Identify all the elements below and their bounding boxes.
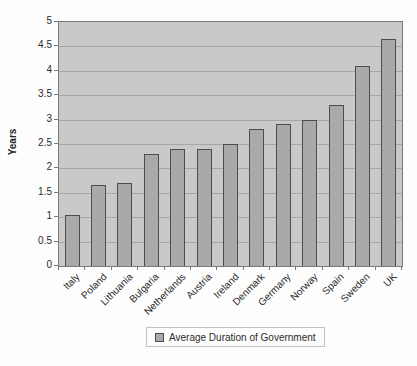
bar-chart: Years 00.511.522.533.544.55 ItalyPolandL…: [0, 0, 417, 366]
x-tick-mark: [322, 266, 323, 270]
bar-lithuania: [117, 183, 132, 266]
bar-bulgaria: [144, 154, 159, 266]
gridline-4.5: [59, 46, 402, 47]
x-tick-label-italy: Italy: [61, 271, 82, 292]
legend-marker-icon: [155, 333, 164, 342]
x-tick-label-austria: Austria: [184, 271, 214, 301]
x-tick-mark: [164, 266, 165, 270]
y-tick-mark: [54, 143, 58, 144]
x-tick-mark: [269, 266, 270, 270]
x-tick-mark: [401, 266, 402, 270]
plot-area: [58, 21, 403, 267]
x-tick-mark: [375, 266, 376, 270]
bar-germany: [276, 124, 291, 266]
gridline-3: [59, 120, 402, 121]
y-axis-title: Years: [7, 129, 18, 156]
bar-sweden: [355, 66, 370, 266]
x-tick-mark: [58, 266, 59, 270]
gridline-4: [59, 71, 402, 72]
x-tick-mark: [111, 266, 112, 270]
y-tick-mark: [54, 45, 58, 46]
x-tick-mark: [84, 266, 85, 270]
x-tick-mark: [216, 266, 217, 270]
y-tick-mark: [54, 94, 58, 95]
y-tick-mark: [54, 241, 58, 242]
x-tick-mark: [190, 266, 191, 270]
y-tick-mark: [54, 119, 58, 120]
y-tick-label-1: 1: [18, 210, 52, 222]
y-tick-label-1.5: 1.5: [18, 186, 52, 198]
bar-norway: [302, 120, 317, 266]
y-tick-label-2.5: 2.5: [18, 137, 52, 149]
y-tick-label-3.5: 3.5: [18, 88, 52, 100]
y-tick-mark: [54, 70, 58, 71]
x-tick-mark: [137, 266, 138, 270]
x-tick-mark: [295, 266, 296, 270]
y-tick-mark: [54, 167, 58, 168]
legend: Average Duration of Government: [146, 327, 325, 347]
y-tick-label-2: 2: [18, 161, 52, 173]
bar-spain: [329, 105, 344, 266]
y-tick-label-4: 4: [18, 64, 52, 76]
x-tick-label-uk: UK: [381, 271, 399, 289]
bar-uk: [381, 39, 396, 266]
bar-poland: [91, 185, 106, 266]
x-tick-label-norway: Norway: [288, 271, 320, 303]
y-tick-mark: [54, 192, 58, 193]
y-tick-mark: [54, 21, 58, 22]
bar-netherlands: [170, 149, 185, 266]
bar-ireland: [223, 144, 238, 266]
x-tick-mark: [243, 266, 244, 270]
gridline-3.5: [59, 95, 402, 96]
bar-italy: [65, 215, 80, 266]
y-tick-label-3: 3: [18, 113, 52, 125]
x-tick-mark: [348, 266, 349, 270]
y-tick-label-5: 5: [18, 15, 52, 27]
bar-denmark: [249, 129, 264, 266]
y-tick-label-4.5: 4.5: [18, 39, 52, 51]
y-tick-label-0.5: 0.5: [18, 235, 52, 247]
legend-label: Average Duration of Government: [169, 332, 316, 343]
y-tick-label-0: 0: [18, 259, 52, 271]
bar-austria: [197, 149, 212, 266]
y-tick-mark: [54, 216, 58, 217]
